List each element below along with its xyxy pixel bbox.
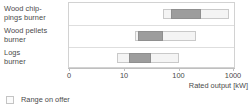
category-label-line: Wood chip- xyxy=(4,4,68,13)
x-axis-line xyxy=(68,68,235,69)
category-axis-labels: Wood chip- pings burner Wood pellets bur… xyxy=(0,0,68,68)
x-axis-tick-label: 10 xyxy=(120,71,128,80)
range-core-bar xyxy=(138,31,164,41)
bar-row-wood-pellets xyxy=(69,25,234,47)
legend-label-range-on-offer: Range on offer xyxy=(21,95,70,104)
category-label-wood-chippings: Wood chip- pings burner xyxy=(4,4,68,22)
bar-row-wood-chippings xyxy=(69,3,234,25)
bar-row-logs xyxy=(69,47,234,69)
category-label-logs: Logs burner xyxy=(4,48,68,66)
legend-swatch-icon xyxy=(6,96,14,104)
category-label-line: pings burner xyxy=(4,13,68,22)
x-axis-tick-label: 1000 xyxy=(225,71,241,80)
legend: Range on offer xyxy=(6,95,70,104)
x-axis-tick-label: 100 xyxy=(172,71,184,80)
range-core-bar xyxy=(129,53,151,63)
category-label-line: Logs xyxy=(4,48,68,57)
range-core-bar xyxy=(171,9,201,19)
bar-chart: Wood chip- pings burner Wood pellets bur… xyxy=(0,0,250,111)
category-label-line: burner xyxy=(4,57,68,66)
category-label-wood-pellets: Wood pellets burner xyxy=(4,26,68,44)
category-label-line: burner xyxy=(4,35,68,44)
x-axis-title: Rated output [kW] xyxy=(189,81,248,90)
category-label-line: Wood pellets xyxy=(4,26,68,35)
x-axis-tick-label: 0 xyxy=(67,71,71,80)
plot-area xyxy=(68,2,235,68)
